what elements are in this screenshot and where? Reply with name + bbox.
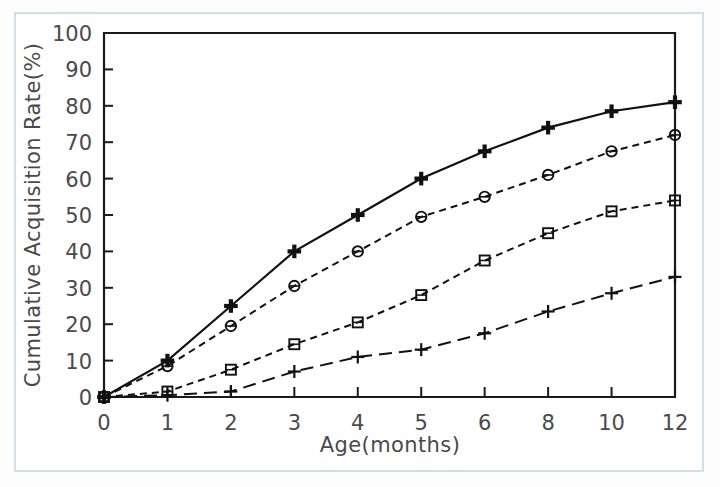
marker-plus <box>288 365 301 378</box>
y-tick-label: 60 <box>65 168 92 192</box>
x-tick-label: 12 <box>662 411 689 435</box>
marker-plus <box>415 343 428 356</box>
line-chart: 0102030405060708090100 012345681012 Cumu… <box>0 0 720 487</box>
marker-plus <box>542 305 555 318</box>
marker-open-square <box>480 256 490 266</box>
marker-filled-plus <box>414 172 428 186</box>
y-tick-label: 90 <box>65 58 92 82</box>
marker-open-square <box>607 206 617 216</box>
marker-open-circle <box>479 192 489 202</box>
y-tick-label: 40 <box>65 240 92 264</box>
series-line-series-2 <box>104 135 675 397</box>
y-tick-label: 0 <box>79 386 92 410</box>
x-tick-label: 5 <box>415 411 428 435</box>
x-tick-label: 8 <box>541 411 554 435</box>
x-tick-label: 0 <box>97 411 110 435</box>
marker-filled-plus <box>541 121 555 135</box>
marker-open-circle <box>606 146 616 156</box>
marker-filled-plus <box>351 208 365 222</box>
y-tick-label: 100 <box>52 22 92 46</box>
marker-open-square <box>226 365 236 375</box>
marker-filled-plus <box>605 104 619 118</box>
x-tick-label: 1 <box>161 411 174 435</box>
marker-plus <box>669 270 682 283</box>
x-tick-label: 4 <box>351 411 364 435</box>
x-tick-label: 2 <box>224 411 237 435</box>
marker-open-circle <box>416 212 426 222</box>
x-axis-title: Age(months) <box>320 433 461 457</box>
marker-filled-plus <box>668 95 682 109</box>
marker-open-square <box>353 317 363 327</box>
series-line-series-4 <box>104 277 675 397</box>
series-line-series-3 <box>104 200 675 397</box>
y-tick-label: 30 <box>65 277 92 301</box>
marker-open-circle <box>543 170 553 180</box>
y-tick-label: 20 <box>65 313 92 337</box>
x-tick-label: 6 <box>478 411 491 435</box>
y-tick-label: 50 <box>65 204 92 228</box>
y-axis-title: Cumulative Acquisition Rate(%) <box>21 43 45 388</box>
chart-series-markers <box>97 95 682 403</box>
marker-open-square <box>543 228 553 238</box>
x-tick-label: 3 <box>288 411 301 435</box>
marker-open-square <box>289 339 299 349</box>
marker-open-circle <box>289 281 299 291</box>
y-tick-label: 80 <box>65 95 92 119</box>
figure-page: 0102030405060708090100 012345681012 Cumu… <box>0 0 720 487</box>
y-tick-label: 10 <box>65 350 92 374</box>
marker-open-circle <box>226 321 236 331</box>
marker-plus <box>605 287 618 300</box>
marker-open-circle <box>353 246 363 256</box>
y-tick-label: 70 <box>65 131 92 155</box>
marker-plus <box>478 327 491 340</box>
marker-filled-plus <box>478 145 492 159</box>
marker-plus <box>351 350 364 363</box>
chart-series-lines <box>104 102 675 397</box>
x-tick-label: 10 <box>598 411 625 435</box>
marker-open-square <box>416 290 426 300</box>
